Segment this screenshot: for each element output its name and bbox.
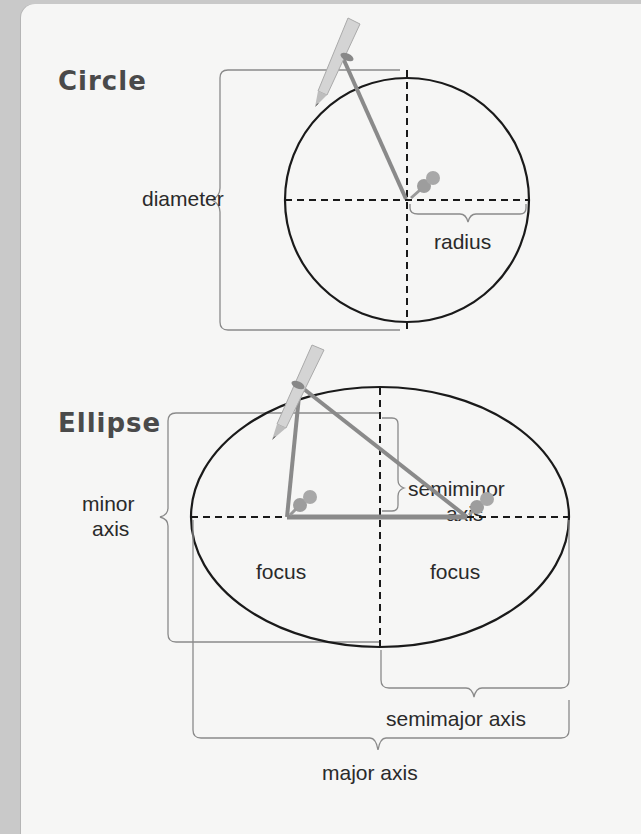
left-focus-label: focus [256, 560, 306, 583]
pushpin-icon [411, 171, 440, 198]
semimajor-axis-label: semimajor axis [386, 707, 526, 730]
ellipse-title: Ellipse [58, 408, 161, 438]
pencil-icon [315, 18, 360, 107]
circle-figure: Circle diameter radius [58, 18, 529, 330]
major-axis-label: major axis [322, 761, 418, 784]
right-focus-string [300, 386, 467, 517]
circle-title: Circle [58, 66, 147, 96]
minor-axis-label-line1: minor [82, 492, 135, 515]
radius-label: radius [434, 230, 491, 253]
diameter-label: diameter [142, 187, 224, 210]
left-focus-pushpin-icon [290, 490, 317, 515]
radius-bracket [410, 204, 526, 222]
minor-axis-label-line2: axis [92, 517, 129, 540]
right-focus-label: focus [430, 560, 480, 583]
ellipse-figure: Ellipse minor axis semiminor axis focus [58, 345, 569, 784]
semimajor-axis-bracket [381, 520, 569, 697]
